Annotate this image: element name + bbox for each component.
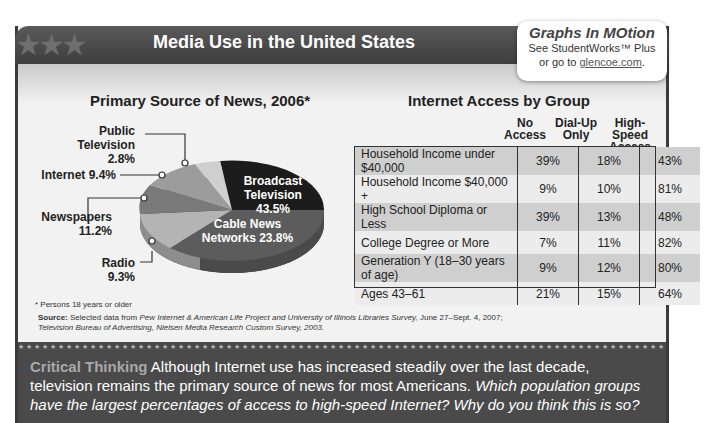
cell-dial-up: 18% xyxy=(579,147,640,175)
cell-dial-up: 12% xyxy=(579,254,640,282)
cell-group: Household Income $40,000 + xyxy=(355,175,518,203)
label-internet: Internet 9.4% xyxy=(30,168,116,182)
table-row: High School Diploma or Less 39% 13% 48% xyxy=(355,203,700,231)
table-row: Household Income under $40,000 39% 18% 4… xyxy=(355,147,700,175)
source-note: Source: Selected data from Pew Internet … xyxy=(38,313,503,333)
cell-high-speed: 82% xyxy=(640,231,701,254)
cell-high-speed: 48% xyxy=(640,203,701,231)
label-radio: Radio9.3% xyxy=(90,256,135,284)
cell-no-access: 39% xyxy=(518,203,579,231)
cell-group: High School Diploma or Less xyxy=(355,203,518,231)
stars-divider-icon: ★★★★★★★★★★★★★★★★★★★★★★★★★★★★★★★★★★★★★★★★… xyxy=(18,342,666,352)
cell-no-access: 9% xyxy=(518,175,579,203)
cell-high-speed: 80% xyxy=(640,254,701,282)
col-header-no-access: NoAccess xyxy=(500,117,550,141)
cell-high-speed: 81% xyxy=(640,175,701,203)
cell-no-access: 9% xyxy=(518,254,579,282)
cell-group: Household Income under $40,000 xyxy=(355,147,518,175)
table-row: Ages 43–61 21% 15% 64% xyxy=(355,282,700,305)
source-italic-2: Television Bureau of Advertising, Nielse… xyxy=(38,323,324,332)
source-date: June 27–Sept. 4, 2007; xyxy=(418,313,503,322)
label-cable-news: Cable NewsNetworks 23.8% xyxy=(200,217,295,245)
critical-thinking-box: Critical Thinking Although Internet use … xyxy=(18,352,666,423)
label-public-television: Public Television2.8% xyxy=(50,124,135,166)
cell-high-speed: 64% xyxy=(640,282,701,305)
cell-high-speed: 43% xyxy=(640,147,701,175)
table-row: College Degree or More 7% 11% 82% xyxy=(355,231,700,254)
footnote: * Persons 18 years or older xyxy=(35,300,132,309)
source-italic: Pew Internet & American Life Project and… xyxy=(139,313,417,322)
cell-dial-up: 10% xyxy=(579,175,640,203)
cell-dial-up: 15% xyxy=(579,282,640,305)
table-row: Household Income $40,000 + 9% 10% 81% xyxy=(355,175,700,203)
table-row: Generation Y (18–30 years of age) 9% 12%… xyxy=(355,254,700,282)
cell-group: College Degree or More xyxy=(355,231,518,254)
cell-dial-up: 13% xyxy=(579,203,640,231)
label-newspapers: Newspapers11.2% xyxy=(40,210,112,238)
cell-group: Ages 43–61 xyxy=(355,282,518,305)
cell-no-access: 7% xyxy=(518,231,579,254)
cell-group: Generation Y (18–30 years of age) xyxy=(355,254,518,282)
label-broadcast-television: BroadcastTelevision 43.5% xyxy=(228,174,318,216)
cell-no-access: 39% xyxy=(518,147,579,175)
cell-dial-up: 11% xyxy=(579,231,640,254)
source-text: Selected data from xyxy=(68,313,140,322)
source-label: Source: xyxy=(38,313,68,322)
cell-no-access: 21% xyxy=(518,282,579,305)
internet-access-table: Household Income under $40,000 39% 18% 4… xyxy=(355,147,700,305)
col-header-dial-up: Dial-UpOnly xyxy=(551,117,601,141)
critical-thinking-label: Critical Thinking xyxy=(30,358,148,375)
